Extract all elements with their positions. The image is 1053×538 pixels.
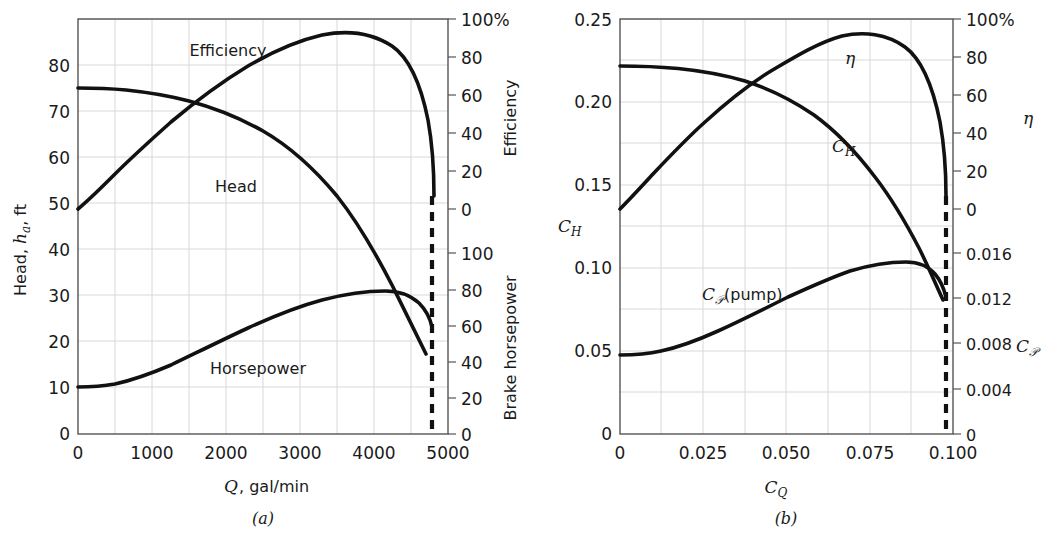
- x-tick-b-0050: 0.050: [762, 443, 811, 463]
- y-axis-title-a-right-efficiency: Efficiency: [501, 79, 520, 156]
- bhp-tick-60: 60: [461, 317, 483, 337]
- eff-tick-80: 80: [461, 48, 483, 68]
- y-tick-b-010: 0.10: [574, 258, 612, 278]
- x-tick-a-4000: 4000: [352, 443, 395, 463]
- y-tick-b-015: 0.15: [574, 175, 612, 195]
- cp-tick-0012: 0.012: [966, 290, 1012, 309]
- grid-b: [620, 19, 953, 434]
- panel-a-dimensional-pump-curves: Efficiency Head Horsepower 0 10 20 30 40…: [0, 0, 530, 538]
- cp-tick-0016: 0.016: [966, 245, 1012, 264]
- eta-tick-20: 20: [966, 162, 988, 182]
- panel-b-dimensionless-pump-curves: η CH C𝒫(pump) 0 0.05 0.10 0.15 0.20 0.25…: [520, 0, 1053, 538]
- eta-tick-80: 80: [966, 48, 988, 68]
- cp-tick-0008: 0.008: [966, 335, 1012, 354]
- panel-label-a: (a): [252, 509, 274, 528]
- curve-label-ch-base: C: [832, 136, 845, 156]
- y-axis-labels-b-right-cp: 0.016 0.012 0.008 0.004 0: [966, 245, 1012, 445]
- x-tick-a-0: 0: [73, 443, 84, 463]
- bhp-tick-80: 80: [461, 281, 483, 301]
- x-axis-title-a-symbol: Q: [224, 476, 238, 496]
- y-axis-title-a-pre: Head,: [11, 244, 30, 296]
- svg-text:C𝒫(pump): C𝒫(pump): [702, 284, 783, 307]
- svg-text:CH: CH: [558, 216, 582, 239]
- eff-tick-0: 0: [461, 200, 472, 220]
- svg-text:Head, ha, ft: Head, ha, ft: [10, 204, 33, 296]
- panel-label-b: (b): [775, 509, 798, 528]
- pump-performance-figure: Efficiency Head Horsepower 0 10 20 30 40…: [0, 0, 1053, 538]
- x-tick-a-2000: 2000: [204, 443, 247, 463]
- x-axis-title-a: Q , gal/min: [224, 476, 309, 496]
- right-axis-ticks-b: [953, 19, 961, 434]
- y-tick-a-80: 80: [48, 56, 70, 76]
- y-axis-title-b-base: C: [558, 216, 571, 236]
- y-tick-a-0: 0: [59, 424, 70, 444]
- eff-tick-60: 60: [461, 86, 483, 106]
- x-tick-a-5000: 5000: [426, 443, 469, 463]
- y-axis-title-efficiency: Efficiency: [501, 79, 520, 156]
- eta-tick-40: 40: [966, 124, 988, 144]
- x-axis-labels-a: 0 1000 2000 3000 4000 5000: [73, 443, 470, 463]
- curve-label-ch-sub: H: [844, 145, 856, 159]
- curve-label-cp-base: C: [702, 284, 715, 304]
- svg-text:CQ: CQ: [765, 477, 788, 500]
- curve-label-head: Head: [215, 177, 257, 196]
- bhp-tick-20: 20: [461, 389, 483, 409]
- y-axis-title-b-right-cp: C𝒫: [1016, 336, 1041, 359]
- y-axis-title-a-left: Head, ha, ft: [10, 204, 33, 296]
- y-axis-title-bhp: Brake horsepower: [501, 275, 520, 421]
- y-axis-title-b-left: CH: [558, 216, 582, 239]
- y-tick-a-30: 30: [48, 286, 70, 306]
- y-axis-title-a-symbol: h: [10, 233, 30, 244]
- y-tick-a-40: 40: [48, 240, 70, 260]
- y-axis-title-a-right-bhp: Brake horsepower: [501, 275, 520, 421]
- curve-label-ch: CH: [832, 136, 856, 159]
- eff-tick-40: 40: [461, 124, 483, 144]
- bhp-tick-100: 100: [461, 244, 493, 264]
- x-tick-b-0100: 0.100: [929, 443, 978, 463]
- y-tick-a-70: 70: [48, 102, 70, 122]
- eff-tick-100: 100%: [461, 10, 510, 30]
- y-axis-labels-a-right-bhp: 100 80 60 40 20 0: [461, 244, 493, 445]
- x-tick-b-0025: 0.025: [679, 443, 728, 463]
- y-tick-a-50: 50: [48, 194, 70, 214]
- y-axis-title-b-right-eta: η: [1023, 108, 1034, 128]
- bhp-tick-0: 0: [461, 425, 472, 445]
- x-axis-title-a-units: , gal/min: [239, 477, 309, 496]
- svg-text:C𝒫: C𝒫: [1016, 336, 1041, 359]
- svg-text:Q: Q: [224, 476, 238, 496]
- curve-label-horsepower: Horsepower: [210, 359, 306, 378]
- curve-label-cp-pump: C𝒫(pump): [702, 284, 783, 307]
- y-tick-a-10: 10: [48, 378, 70, 398]
- y-tick-b-020: 0.20: [574, 92, 612, 112]
- y-axis-title-cp-sub: 𝒫: [1029, 345, 1041, 359]
- x-tick-b-0075: 0.075: [846, 443, 895, 463]
- x-axis-title-b-sub: Q: [778, 486, 788, 500]
- cp-tick-0004: 0.004: [966, 381, 1012, 400]
- bhp-tick-40: 40: [461, 353, 483, 373]
- y-tick-a-60: 60: [48, 148, 70, 168]
- y-axis-title-b-sub: H: [570, 225, 582, 239]
- y-tick-b-0: 0: [601, 424, 612, 444]
- curve-label-eta: η: [845, 48, 856, 68]
- curve-label-cp-suffix: (pump): [724, 285, 783, 304]
- x-tick-a-3000: 3000: [278, 443, 321, 463]
- right-axis-ticks-a: [448, 19, 456, 434]
- eta-tick-100: 100%: [966, 10, 1015, 30]
- y-tick-b-025: 0.25: [574, 10, 612, 30]
- eta-tick-60: 60: [966, 86, 988, 106]
- curve-ch-b: [620, 66, 943, 300]
- x-axis-title-b: CQ: [765, 477, 788, 500]
- eff-tick-20: 20: [461, 162, 483, 182]
- svg-text:CH: CH: [832, 136, 856, 159]
- x-axis-title-b-base: C: [765, 477, 778, 497]
- y-tick-a-20: 20: [48, 332, 70, 352]
- y-axis-title-cp-base: C: [1016, 336, 1029, 356]
- y-tick-b-005: 0.05: [574, 341, 612, 361]
- x-tick-b-0: 0: [615, 443, 626, 463]
- y-axis-labels-b-right-eta: 100% 80 60 40 20 0: [966, 10, 1015, 220]
- y-axis-title-a-post: , ft: [11, 204, 30, 226]
- x-axis-labels-b: 0 0.025 0.050 0.075 0.100: [615, 443, 978, 463]
- eta-tick-0: 0: [966, 200, 977, 220]
- y-axis-labels-a-left: 0 10 20 30 40 50 60 70 80: [48, 56, 70, 444]
- x-tick-a-1000: 1000: [130, 443, 173, 463]
